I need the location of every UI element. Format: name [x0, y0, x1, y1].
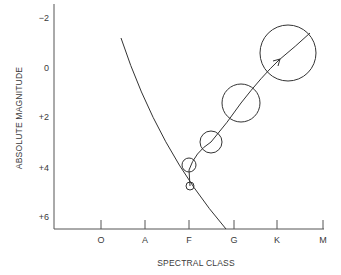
y-axis-title: ABSOLUTE MAGNITUDE	[14, 67, 24, 169]
x-tick-K: K	[274, 235, 280, 245]
x-ticks	[101, 220, 323, 229]
y-tick-plus6: +6	[39, 212, 49, 222]
main-sequence-curve	[121, 38, 226, 229]
x-tick-O: O	[97, 235, 104, 245]
y-tick-plus4: +4	[39, 163, 49, 173]
x-tick-G: G	[230, 235, 237, 245]
y-tick-plus2: +2	[39, 112, 49, 122]
x-tick-M: M	[319, 235, 327, 245]
x-tick-F: F	[186, 235, 192, 245]
x-tick-A: A	[142, 235, 148, 245]
x-axis-title: SPECTRAL CLASS	[157, 258, 235, 268]
y-tick-minus2: −2	[39, 13, 49, 23]
y-tick-0: 0	[44, 63, 49, 73]
hr-diagram: O A F G K M −2 0 +2 +4 +6 SPECTRAL CLASS…	[0, 0, 341, 275]
evolution-track	[189, 33, 310, 186]
